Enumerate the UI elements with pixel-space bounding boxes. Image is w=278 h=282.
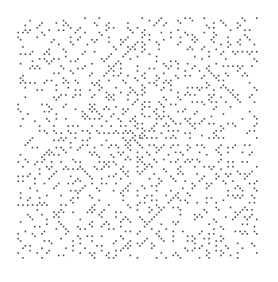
spiral-canvas: [0, 0, 278, 282]
